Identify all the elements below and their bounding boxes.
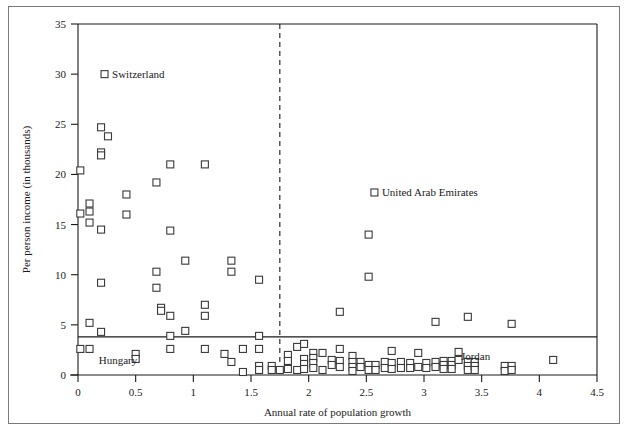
data-point: [508, 366, 515, 373]
data-point: [276, 366, 283, 373]
scatter-plot: 0510152025303500.511.522.533.544.5Annual…: [0, 0, 628, 434]
data-point: [319, 366, 326, 373]
data-point: [256, 276, 263, 283]
data-point: [98, 279, 105, 286]
y-tick-label-20: 20: [55, 168, 67, 180]
data-point: [349, 367, 356, 374]
data-point: [201, 312, 208, 319]
y-tick-label-10: 10: [55, 269, 67, 281]
annotation-uae-label: United Arab Emirates: [382, 186, 478, 198]
data-point: [86, 345, 93, 352]
data-point: [167, 345, 174, 352]
data-point: [239, 345, 246, 352]
data-point: [86, 200, 93, 207]
data-point: [388, 347, 395, 354]
x-tick-label-2.5: 2.5: [359, 386, 373, 398]
data-point: [123, 211, 130, 218]
data-point: [153, 284, 160, 291]
data-point: [336, 308, 343, 315]
y-tick-label-5: 5: [61, 319, 67, 331]
data-point: [228, 268, 235, 275]
data-point: [167, 227, 174, 234]
annotation-switzerland-label: Switzerland: [112, 68, 165, 80]
data-point: [328, 361, 335, 368]
data-point: [86, 319, 93, 326]
y-tick-label-15: 15: [55, 219, 67, 231]
data-point: [357, 363, 364, 370]
y-tick-label-35: 35: [55, 18, 67, 30]
annotation-hungary-label: Hungary: [99, 354, 138, 366]
data-point: [86, 208, 93, 215]
data-point: [397, 364, 404, 371]
y-tick-label-0: 0: [61, 369, 67, 381]
data-point: [464, 366, 471, 373]
data-point: [440, 365, 447, 372]
data-point: [256, 345, 263, 352]
y-tick-label-25: 25: [55, 118, 67, 130]
y-axis-title: Per person income (in thousands): [20, 126, 33, 274]
figure-container: 0510152025303500.511.522.533.544.5Annual…: [0, 0, 628, 434]
data-point: [77, 210, 84, 217]
data-point: [336, 363, 343, 370]
x-tick-label-3: 3: [421, 386, 427, 398]
data-point: [501, 367, 508, 374]
data-point: [284, 365, 291, 372]
data-point: [201, 161, 208, 168]
data-point: [471, 366, 478, 373]
data-point: [415, 349, 422, 356]
data-point: [432, 318, 439, 325]
data-points-group: [77, 124, 557, 376]
data-point: [381, 364, 388, 371]
x-tick-label-1: 1: [191, 386, 197, 398]
data-point: [182, 327, 189, 334]
data-point: [256, 332, 263, 339]
data-point: [98, 152, 105, 159]
data-point: [123, 191, 130, 198]
data-point: [423, 364, 430, 371]
data-point: [294, 343, 301, 350]
data-point: [336, 345, 343, 352]
data-point: [77, 167, 84, 174]
data-point: [319, 349, 326, 356]
data-point: [301, 365, 308, 372]
data-point: [508, 320, 515, 327]
data-point: [158, 307, 165, 314]
data-point: [98, 226, 105, 233]
data-point: [284, 357, 291, 364]
data-point: [228, 257, 235, 264]
data-point: [239, 368, 246, 375]
data-point: [201, 301, 208, 308]
x-tick-label-1.5: 1.5: [244, 386, 258, 398]
x-tick-label-3.5: 3.5: [475, 386, 489, 398]
x-tick-label-2: 2: [306, 386, 312, 398]
data-point: [201, 345, 208, 352]
data-point: [432, 363, 439, 370]
data-point: [310, 364, 317, 371]
data-point: [372, 366, 379, 373]
annotation-jordan-label: Jordan: [461, 350, 491, 362]
data-point: [365, 273, 372, 280]
data-point: [221, 350, 228, 357]
data-point: [98, 124, 105, 131]
annotation-uae-marker: [371, 189, 378, 196]
data-point: [464, 313, 471, 320]
data-point: [294, 366, 301, 373]
data-point: [415, 363, 422, 370]
x-tick-label-4.5: 4.5: [590, 386, 604, 398]
data-point: [167, 161, 174, 168]
data-point: [365, 366, 372, 373]
x-tick-label-0.5: 0.5: [129, 386, 143, 398]
data-point: [365, 231, 372, 238]
data-point: [228, 358, 235, 365]
data-point: [550, 356, 557, 363]
data-point: [301, 340, 308, 347]
data-point: [98, 328, 105, 335]
data-point: [153, 179, 160, 186]
data-point: [182, 257, 189, 264]
x-tick-label-0: 0: [75, 386, 81, 398]
data-point: [407, 364, 414, 371]
y-tick-label-30: 30: [55, 68, 67, 80]
data-point: [86, 219, 93, 226]
annotation-switzerland-marker: [101, 71, 108, 78]
data-point: [167, 312, 174, 319]
